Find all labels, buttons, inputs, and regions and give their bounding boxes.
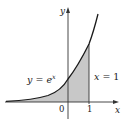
x-axis-label: x (115, 105, 120, 115)
boundary-label-eq: = (99, 71, 113, 82)
y-axis-arrow-icon (66, 7, 70, 13)
function-label-eq: = (32, 74, 46, 85)
shaded-area (6, 44, 89, 102)
function-label-exponent: x (52, 73, 56, 81)
function-label: y = ex (26, 73, 56, 85)
exponential-area-diagram: y x 0 1 y = ex x = 1 (0, 0, 125, 125)
tick-label-1: 1 (87, 104, 92, 114)
tick-label-0: 0 (59, 104, 64, 114)
boundary-label: x = 1 (94, 71, 119, 82)
y-axis-label: y (59, 6, 66, 16)
x-axis-arrow-icon (113, 100, 119, 104)
boundary-label-rhs: 1 (113, 71, 119, 82)
